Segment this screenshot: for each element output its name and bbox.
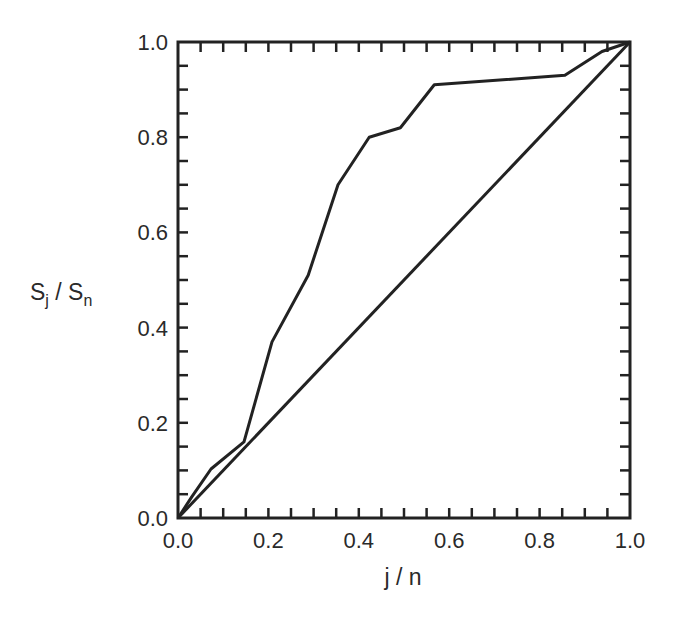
chart: 0.00.20.40.60.81.00.00.20.40.60.81.0 j /… [0, 0, 685, 621]
y-label-s2: S [68, 279, 83, 305]
y-tick-label: 0.0 [137, 506, 168, 531]
x-tick-label: 0.0 [163, 528, 194, 553]
y-label-separator: / [49, 279, 68, 305]
x-tick-label: 0.4 [344, 528, 375, 553]
y-tick-label: 0.6 [137, 220, 168, 245]
x-tick-label: 0.8 [524, 528, 555, 553]
x-tick-label: 0.6 [434, 528, 465, 553]
y-tick-label: 0.8 [137, 125, 168, 150]
y-axis-label: Sj / Sn [30, 279, 92, 309]
y-label-sub-n: n [83, 292, 92, 309]
y-tick-label: 0.2 [137, 411, 168, 436]
y-label-s1: S [30, 279, 45, 305]
x-axis-label: j / n [383, 564, 421, 590]
x-tick-label: 0.2 [253, 528, 284, 553]
y-tick-label: 0.4 [137, 316, 168, 341]
x-tick-label: 1.0 [615, 528, 646, 553]
y-tick-label: 1.0 [137, 30, 168, 55]
